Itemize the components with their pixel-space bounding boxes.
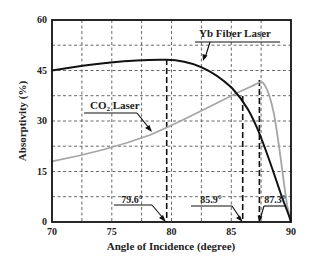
annotation-87-3: 87.3° [258,194,287,222]
y-axis-label: Absorptivity (%) [16,80,29,161]
svg-text:60: 60 [37,14,47,25]
svg-text:75: 75 [107,226,117,237]
svg-text:87.3°: 87.3° [264,194,286,205]
absorptivity-chart: Yb Fiber Laser CO2 Laser 79.6° 85.9° 87.… [0,0,309,265]
annotation-85-9: 85.9° [191,194,243,222]
svg-text:79.6°: 79.6° [121,194,143,205]
svg-text:85.9°: 85.9° [200,194,222,205]
annotation-79-6: 79.6° [114,194,166,222]
svg-text:45: 45 [37,65,47,76]
svg-text:85: 85 [226,226,236,237]
yb-legend-label: Yb Fiber Laser [199,27,271,39]
y-axis-ticks: 0 15 30 45 60 [37,14,47,227]
grid [52,20,291,222]
x-axis-ticks: 70 75 80 85 90 [47,226,296,237]
svg-text:30: 30 [37,115,47,126]
yb-legend: Yb Fiber Laser [195,27,280,61]
svg-text:90: 90 [286,226,296,237]
co2-legend-label: CO2 Laser [90,99,140,113]
svg-text:70: 70 [47,226,57,237]
x-axis-label: Angle of Incidence (degree) [107,240,236,253]
svg-text:15: 15 [37,166,47,177]
svg-text:80: 80 [167,226,177,237]
